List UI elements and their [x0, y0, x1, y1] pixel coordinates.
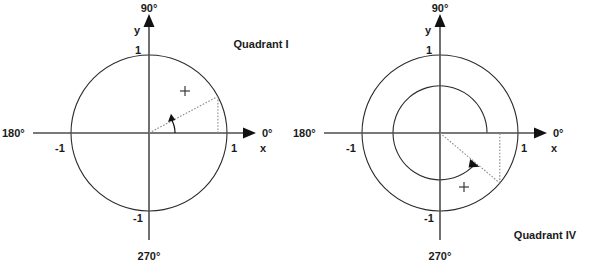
right-x-axis-name: x	[551, 142, 558, 154]
right-label-90deg: 90°	[432, 2, 449, 14]
left-y-axis-arrowhead	[144, 14, 155, 27]
left-tick-x-negative: -1	[55, 142, 65, 154]
left-terminal-ray	[149, 96, 218, 133]
right-y-axis-arrowhead	[435, 14, 446, 27]
left-label-0deg: 0°	[262, 127, 273, 139]
right-quadrant-caption: Quadrant IV	[514, 229, 577, 241]
figure-canvas: 90° 270° 180° 0° y x 1 -1 -1 1 Quadrant …	[0, 0, 591, 272]
right-panel: 90° 270° 180° 0° y x 1 -1 -1 1 Quadrant …	[293, 2, 577, 262]
right-label-0deg: 0°	[553, 127, 564, 139]
right-inner-arc-arrowhead	[469, 159, 480, 168]
left-y-axis-name: y	[134, 24, 141, 36]
left-angle-arc	[172, 120, 176, 133]
right-tick-x-negative: -1	[346, 142, 356, 154]
left-tick-y-negative: -1	[133, 212, 143, 224]
left-label-270deg: 270°	[138, 250, 161, 262]
right-plus-marker	[459, 182, 469, 192]
right-label-270deg: 270°	[429, 250, 452, 262]
right-label-180deg: 180°	[293, 127, 316, 139]
right-x-axis-arrowhead	[534, 128, 547, 139]
left-angle-arc-arrowhead	[168, 114, 175, 122]
left-panel: 90° 270° 180° 0° y x 1 -1 -1 1 Quadrant …	[2, 2, 289, 262]
right-tick-y-negative: -1	[424, 212, 434, 224]
left-plus-marker	[180, 86, 190, 96]
right-tick-x-positive: 1	[521, 142, 527, 154]
left-tick-y-positive: 1	[135, 44, 141, 56]
left-label-90deg: 90°	[141, 2, 158, 14]
left-quadrant-caption: Quadrant I	[233, 38, 288, 50]
right-tick-y-positive: 1	[426, 44, 432, 56]
left-tick-x-positive: 1	[231, 142, 237, 154]
right-y-axis-name: y	[425, 24, 432, 36]
right-terminal-ray	[440, 133, 500, 183]
left-x-axis-arrowhead	[243, 128, 256, 139]
unit-circle-figure: 90° 270° 180° 0° y x 1 -1 -1 1 Quadrant …	[0, 0, 591, 272]
left-label-180deg: 180°	[2, 127, 25, 139]
left-x-axis-name: x	[260, 142, 267, 154]
